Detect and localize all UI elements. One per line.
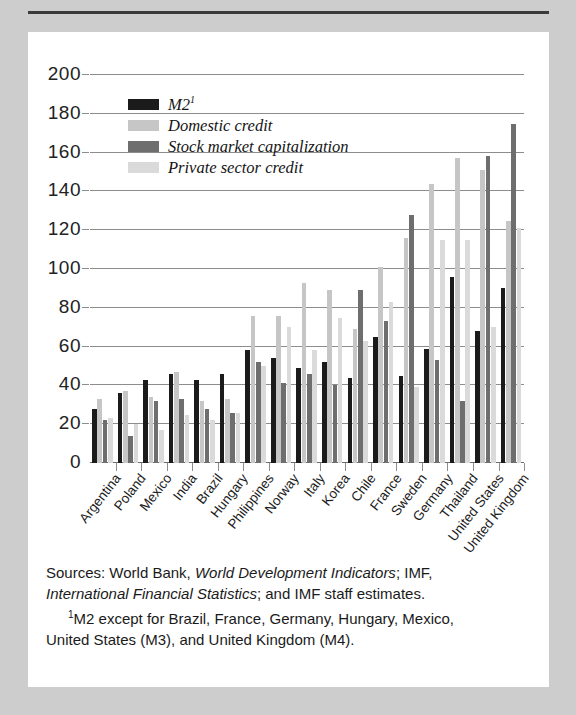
- bar: [338, 318, 343, 464]
- bar: [353, 329, 358, 463]
- bar: [149, 397, 154, 463]
- bar: [384, 321, 389, 463]
- bar: [205, 409, 210, 463]
- bar: [179, 399, 184, 463]
- bar: [118, 393, 123, 463]
- bar: [103, 420, 108, 463]
- bar: [169, 374, 174, 463]
- legend-swatch-stock_market_capitalization: [128, 141, 159, 152]
- bar: [159, 430, 164, 463]
- bar: [225, 399, 230, 463]
- bar: [460, 401, 465, 463]
- figure-container: 020406080100120140160180200 ArgentinaPol…: [0, 0, 576, 715]
- bar-group: [447, 75, 473, 463]
- bar: [511, 124, 516, 464]
- bar: [440, 240, 445, 463]
- bar: [389, 302, 394, 463]
- x-tick-mark: [192, 463, 193, 471]
- source-notes: Sources: World Bank, World Development I…: [46, 562, 538, 650]
- x-tick-mark: [218, 463, 219, 471]
- bar: [465, 240, 470, 463]
- x-tick-mark: [116, 463, 117, 471]
- bar: [154, 401, 159, 463]
- bar: [210, 420, 215, 463]
- y-tick-label-160: 160: [48, 141, 81, 163]
- legend-item-domestic_credit: Domestic credit: [128, 115, 388, 136]
- y-tick-mark-140: [82, 190, 89, 191]
- bar: [455, 158, 460, 463]
- bar: [134, 424, 139, 463]
- bar: [307, 374, 312, 463]
- bar: [287, 327, 292, 463]
- legend-label-domestic_credit: Domestic credit: [168, 116, 272, 136]
- sources-italic-2: International Financial Statistics: [46, 585, 257, 602]
- x-tick-mark: [269, 463, 270, 471]
- y-tick-mark-180: [82, 113, 89, 114]
- y-tick-mark-100: [82, 268, 89, 269]
- y-tick-mark-20: [82, 423, 89, 424]
- bar: [404, 238, 409, 463]
- x-tick-mark: [345, 463, 346, 471]
- y-tick-label-100: 100: [48, 257, 81, 279]
- bar: [97, 399, 102, 463]
- bar: [302, 283, 307, 463]
- legend-item-private_sector_credit: Private sector credit: [128, 157, 388, 178]
- bar: [108, 418, 113, 463]
- footnote-line-1: 1M2 except for Brazil, France, Germany, …: [46, 604, 538, 629]
- x-tick-mark: [499, 463, 500, 471]
- legend-swatch-domestic_credit: [128, 120, 159, 131]
- y-tick-mark-160: [82, 152, 89, 153]
- bar: [435, 360, 440, 463]
- bar: [409, 215, 414, 463]
- sources-suffix-2: ; and IMF staff estimates.: [257, 585, 425, 602]
- x-tick-mark: [396, 463, 397, 471]
- bar-group: [499, 75, 525, 463]
- bar: [373, 337, 378, 463]
- bar: [333, 385, 338, 463]
- sources-line-1: Sources: World Bank, World Development I…: [46, 562, 538, 583]
- bar-group: [396, 75, 422, 463]
- x-tick-mark: [422, 463, 423, 471]
- y-tick-label-60: 60: [59, 335, 81, 357]
- x-tick-mark: [473, 463, 474, 471]
- bar-group: [90, 75, 116, 463]
- legend-label-m2: M21: [168, 94, 195, 115]
- bar: [414, 387, 419, 463]
- bar: [506, 221, 511, 464]
- chart-area: 020406080100120140160180200 ArgentinaPol…: [28, 32, 549, 537]
- bar: [399, 376, 404, 463]
- bar: [185, 415, 190, 464]
- footnote-text-2: United States (M3), and United Kingdom (…: [46, 631, 354, 648]
- bar: [327, 290, 332, 463]
- bar: [92, 409, 97, 463]
- y-tick-label-0: 0: [70, 451, 81, 473]
- footnote-line-2: United States (M3), and United Kingdom (…: [46, 629, 538, 650]
- bar: [236, 413, 241, 463]
- bar: [424, 349, 429, 463]
- bar: [491, 327, 496, 463]
- sources-suffix-1: ; IMF,: [396, 564, 433, 581]
- x-tick-mark: [243, 463, 244, 471]
- y-tick-mark-120: [82, 229, 89, 230]
- bar: [251, 316, 256, 463]
- sources-italic-1: World Development Indicators: [195, 564, 396, 581]
- y-tick-label-40: 40: [59, 373, 81, 395]
- bar: [174, 372, 179, 463]
- bar: [475, 331, 480, 463]
- bar: [322, 362, 327, 463]
- x-tick-mark: [447, 463, 448, 471]
- legend-superscript: 1: [190, 94, 195, 105]
- bar: [256, 362, 261, 463]
- bar: [296, 368, 301, 463]
- bar: [378, 267, 383, 463]
- y-tick-mark-60: [82, 346, 89, 347]
- footnote-text-1: M2 except for Brazil, France, Germany, H…: [74, 610, 454, 627]
- y-tick-mark-80: [82, 307, 89, 308]
- y-tick-label-120: 120: [48, 218, 81, 240]
- x-tick-mark: [371, 463, 372, 471]
- bar: [128, 436, 133, 463]
- bar: [281, 383, 286, 463]
- y-tick-mark-40: [82, 384, 89, 385]
- top-rule-divider: [28, 11, 549, 14]
- chart-panel: 020406080100120140160180200 ArgentinaPol…: [28, 32, 549, 687]
